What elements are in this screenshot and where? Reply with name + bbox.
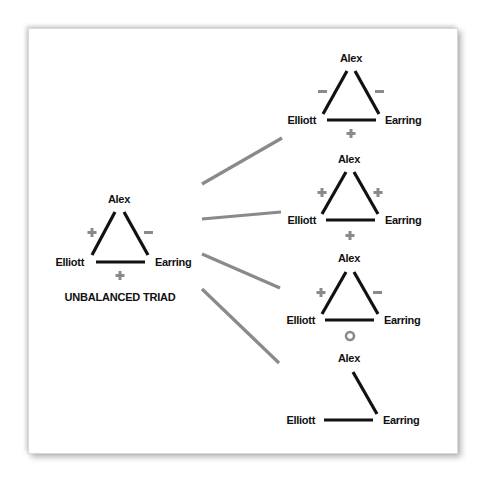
edge-alex-elliott: [322, 272, 346, 314]
plus-icon: [347, 129, 356, 138]
node-alex: Alex: [338, 252, 361, 264]
minus-icon: [144, 231, 153, 234]
node-alex: Alex: [340, 52, 363, 64]
connector-4: [202, 289, 279, 363]
outcome-triad-3: Alex Elliott Earring: [287, 252, 421, 340]
plus-icon: [346, 231, 355, 240]
plus-icon: [88, 228, 97, 237]
connector-3: [202, 254, 280, 288]
triad-title: UNBALANCED TRIAD: [64, 291, 175, 303]
outcome-triad-1: Alex Elliott Earring: [288, 52, 422, 138]
node-alex: Alex: [338, 153, 361, 165]
plus-icon: [116, 271, 125, 280]
node-earring: Earring: [385, 214, 421, 226]
node-elliott: Elliott: [288, 214, 317, 226]
node-earring: Earring: [384, 314, 420, 326]
plus-icon: [317, 288, 326, 297]
edge-alex-earring: [353, 372, 377, 414]
plus-icon: [374, 188, 383, 197]
node-earring: Earring: [385, 114, 421, 126]
outcome-triad-2: Alex Elliott Earring: [288, 153, 422, 240]
node-elliott: Elliott: [288, 114, 317, 126]
connectors: [202, 138, 282, 363]
node-alex: Alex: [338, 352, 361, 364]
outcome-triad-4: Alex Elliott Earring: [287, 352, 420, 426]
minus-icon: [373, 291, 382, 294]
node-elliott: Elliott: [287, 314, 316, 326]
balance-theory-diagram: Alex Elliott Earring UNBALANCED TRIAD Al…: [0, 0, 486, 483]
node-elliott: Elliott: [56, 256, 85, 268]
node-earring: Earring: [383, 414, 419, 426]
minus-icon: [375, 90, 384, 93]
node-elliott: Elliott: [287, 414, 316, 426]
main-triad: Alex Elliott Earring UNBALANCED TRIAD: [56, 193, 192, 303]
plus-icon: [318, 188, 327, 197]
connector-1: [202, 138, 282, 184]
connector-2: [202, 212, 281, 219]
zero-icon: [346, 332, 354, 340]
node-earring: Earring: [155, 256, 191, 268]
node-alex: Alex: [108, 193, 131, 205]
minus-icon: [318, 90, 327, 93]
